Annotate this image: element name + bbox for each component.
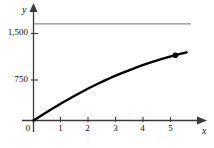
y-axis-label: y (22, 5, 26, 15)
x-tick-label-4: 4 (136, 124, 149, 133)
y-tick-label-750: 750 (0, 75, 28, 84)
x-tick-label-2: 2 (81, 124, 94, 133)
x-tick-label-1: 1 (54, 124, 67, 133)
y-axis-arrowhead (30, 3, 38, 12)
data-curve (34, 52, 187, 120)
endpoint-dot-marker (173, 52, 179, 58)
origin-label: 0 (22, 124, 34, 133)
x-tick-label-3: 3 (109, 124, 122, 133)
graph-figure: y x 1,500 750 0 1 2 3 4 5 (0, 0, 214, 148)
x-axis-label: x (202, 126, 206, 136)
x-axis-arrowhead (197, 117, 207, 125)
x-tick-label-5: 5 (164, 124, 177, 133)
y-tick-label-1500: 1,500 (0, 28, 28, 37)
